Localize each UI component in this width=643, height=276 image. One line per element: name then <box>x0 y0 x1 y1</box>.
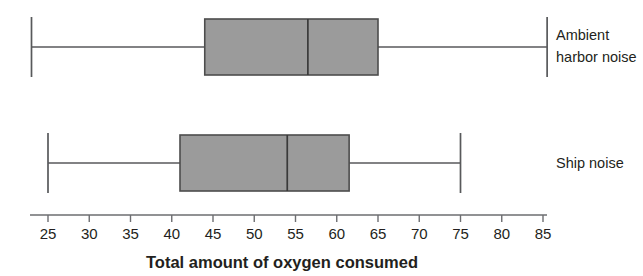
x-axis-tick-label: 75 <box>452 225 469 242</box>
x-axis-tick-label: 80 <box>493 225 510 242</box>
series-label-ambient-line1: Ambient <box>556 27 609 43</box>
x-axis-tick-label: 50 <box>246 225 263 242</box>
boxplot-row-ambient-harbor-noise: Ambient harbor noise <box>32 17 637 77</box>
x-axis-tick-label: 70 <box>411 225 428 242</box>
x-axis-tick-label: 65 <box>370 225 387 242</box>
x-axis: 25303540455055606570758085 <box>30 215 551 242</box>
x-axis-tick-label: 60 <box>328 225 345 242</box>
box-plot-svg: Ambient harbor noise Ship noise 25303540… <box>0 0 643 276</box>
x-axis-tick-label: 25 <box>40 225 57 242</box>
x-axis-ticks: 25303540455055606570758085 <box>40 215 552 242</box>
box-iqr <box>180 135 349 191</box>
x-axis-tick-label: 45 <box>205 225 222 242</box>
x-axis-tick-label: 55 <box>287 225 304 242</box>
box-iqr <box>205 19 378 75</box>
series-label-ambient-line2: harbor noise <box>556 49 637 65</box>
x-axis-tick-label: 35 <box>122 225 139 242</box>
box-plot-chart: Ambient harbor noise Ship noise 25303540… <box>0 0 643 276</box>
x-axis-tick-label: 40 <box>163 225 180 242</box>
x-axis-title: Total amount of oxygen consumed <box>146 253 418 271</box>
boxplot-row-ship-noise: Ship noise <box>48 133 624 193</box>
x-axis-tick-label: 85 <box>535 225 552 242</box>
x-axis-tick-label: 30 <box>81 225 98 242</box>
series-label-ship-noise: Ship noise <box>556 155 624 171</box>
